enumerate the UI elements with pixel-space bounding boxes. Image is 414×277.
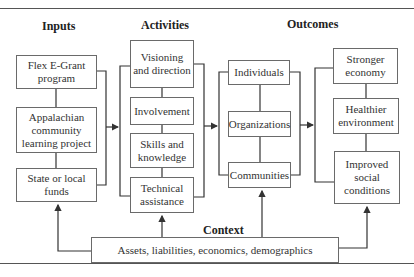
input-box-appalachian: Appalachian community learning project xyxy=(16,107,97,153)
outcome-box-communities: Communities xyxy=(228,162,291,188)
activities-header: Activities xyxy=(141,18,189,33)
result-box-improved-social: Improved social conditions xyxy=(334,151,400,204)
context-box: Assets, liabilities, economics, demograp… xyxy=(91,237,339,263)
result-box-healthier-environment: Healthier environment xyxy=(333,98,399,134)
outcome-box-organizations: Organizations xyxy=(228,111,291,137)
outcome-box-individuals: Individuals xyxy=(228,60,290,85)
input-box-flex-e-grant: Flex E-Grant program xyxy=(16,55,97,89)
activity-box-skills: Skills and knowledge xyxy=(130,133,194,168)
activity-box-technical: Technical assistance xyxy=(130,177,194,213)
outcomes-header: Outcomes xyxy=(287,17,338,32)
context-header: Context xyxy=(203,223,244,238)
inputs-header: Inputs xyxy=(42,19,75,34)
input-box-state-local-funds: State or local funds xyxy=(16,168,97,202)
result-box-stronger-economy: Stronger economy xyxy=(333,48,398,84)
activity-box-visioning: Visioning and direction xyxy=(130,40,194,88)
activity-box-involvement: Involvement xyxy=(130,97,194,125)
